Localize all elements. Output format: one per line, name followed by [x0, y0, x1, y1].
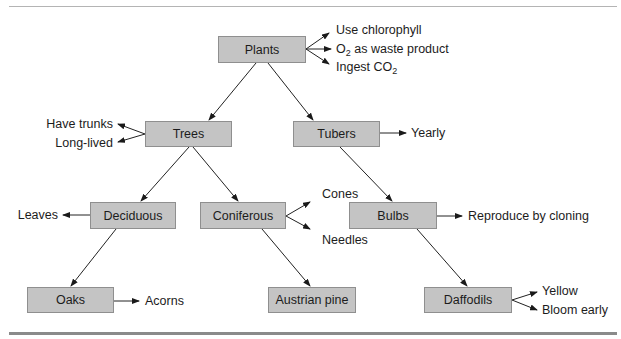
- node-label: Plants: [245, 43, 280, 57]
- node-label: Bulbs: [377, 209, 408, 223]
- edge-plants-trees: [209, 63, 256, 120]
- node-label: Coniferous: [213, 209, 273, 223]
- node-coniferous: Coniferous: [200, 202, 286, 229]
- node-label: Tubers: [317, 127, 355, 141]
- node-plants: Plants: [218, 36, 306, 63]
- node-label: Daffodils: [444, 293, 492, 307]
- node-deciduous: Deciduous: [90, 202, 176, 229]
- node-austrian-pine: Austrian pine: [268, 287, 356, 313]
- node-trees: Trees: [145, 121, 232, 147]
- attr-acorns: Acorns: [145, 294, 184, 308]
- attr-ingest-co2: Ingest CO2: [336, 60, 397, 74]
- bottom-rule: [9, 332, 617, 335]
- edge-deciduous-oaks: [71, 229, 116, 286]
- edge-coniferous-austrian-pine: [262, 229, 310, 286]
- node-label: Trees: [173, 127, 205, 141]
- attr-needles: Needles: [322, 233, 368, 247]
- edge-trees-deciduous: [141, 147, 189, 201]
- attr-cones: Cones: [322, 187, 358, 201]
- attr-long-lived: Long-lived: [55, 136, 113, 150]
- attr-use-chlorophyll: Use chlorophyll: [336, 23, 421, 37]
- attr-have-trunks: Have trunks: [46, 117, 113, 131]
- node-tubers: Tubers: [293, 121, 380, 147]
- attr-leaves: Leaves: [18, 208, 58, 222]
- attr-yellow: Yellow: [542, 284, 578, 298]
- node-label: Oaks: [56, 293, 85, 307]
- attr-reproduce-by-cloning: Reproduce by cloning: [468, 209, 589, 223]
- edge-plants-tubers: [268, 63, 313, 120]
- attr-o2-waste-product: O2 as waste product: [336, 42, 449, 56]
- node-oaks: Oaks: [27, 287, 114, 313]
- attr-yearly: Yearly: [411, 126, 445, 140]
- node-daffodils: Daffodils: [424, 287, 512, 313]
- node-label: Deciduous: [103, 209, 162, 223]
- attr-bloom-early: Bloom early: [542, 303, 608, 317]
- node-bulbs: Bulbs: [349, 202, 437, 229]
- edge-bulbs-daffodils: [417, 229, 467, 286]
- node-label: Austrian pine: [276, 293, 349, 307]
- edge-trees-coniferous: [193, 147, 238, 201]
